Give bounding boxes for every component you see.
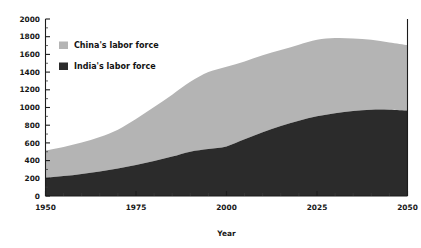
y-tick-label: 1200: [19, 85, 40, 94]
y-tick-label: 1600: [19, 50, 40, 59]
y-tick-label: 600: [25, 139, 40, 148]
y-tick-label: 800: [25, 121, 40, 130]
y-tick-label: 1800: [19, 32, 40, 41]
y-tick-label: 400: [25, 156, 40, 165]
y-tick-label: 1000: [19, 103, 40, 112]
legend-label-china: China's labor force: [74, 41, 159, 50]
chart-figure: 0200400600800100012001400160018002000 19…: [0, 0, 421, 248]
x-tick-label: 1950: [35, 203, 56, 212]
x-tick-label: 2000: [216, 203, 237, 212]
x-tick-label: 2050: [397, 203, 418, 212]
y-tick-label: 0: [35, 192, 40, 201]
y-tick-label: 200: [25, 174, 40, 183]
labor-force-area-chart: 0200400600800100012001400160018002000 19…: [0, 0, 421, 248]
x-tick-label: 2025: [307, 203, 328, 212]
legend-swatch-india: [59, 63, 68, 71]
y-tick-label: 1400: [19, 68, 40, 77]
legend-label-india: India's labor force: [74, 62, 156, 71]
legend-swatch-china: [59, 42, 68, 50]
y-tick-label: 2000: [19, 15, 40, 24]
x-tick-label: 1975: [126, 203, 147, 212]
x-axis-title: Year: [216, 229, 236, 238]
